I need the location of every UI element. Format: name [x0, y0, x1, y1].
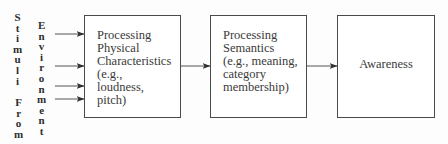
arrows-layer	[0, 0, 448, 144]
attention-flow-diagram: S t i m u l i F r o m E n v i r o n m e …	[0, 0, 448, 144]
